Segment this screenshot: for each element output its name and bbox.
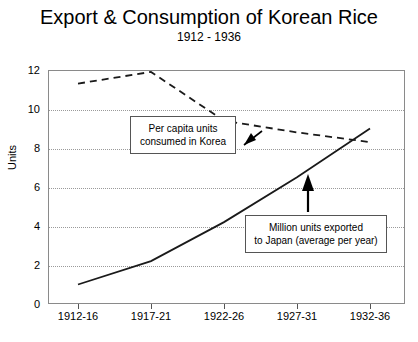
y-tick-label-2: 2 — [0, 259, 40, 271]
x-tick-mark-1922-26 — [224, 304, 225, 309]
x-tick-label-1932-36: 1932-36 — [350, 310, 390, 322]
chart-title: Export & Consumption of Korean Rice — [0, 6, 418, 29]
x-tick-label-1922-26: 1922-26 — [204, 310, 244, 322]
gridline-10 — [49, 110, 404, 111]
y-tick-label-8: 8 — [0, 142, 40, 154]
x-tick-mark-1917-21 — [151, 304, 152, 309]
gridline-2 — [49, 266, 404, 267]
x-tick-mark-1927-31 — [297, 304, 298, 309]
annotation-consumed-line1: Per capita units — [138, 122, 228, 135]
x-tick-mark-1932-36 — [370, 304, 371, 309]
y-tick-label-0: 0 — [0, 298, 40, 310]
x-tick-label-1917-21: 1917-21 — [131, 310, 171, 322]
annotation-per-capita-consumed: Per capita units consumed in Korea — [130, 116, 236, 154]
gridline-6 — [49, 188, 404, 189]
x-tick-mark-1912-16 — [78, 304, 79, 309]
x-tick-label-1912-16: 1912-16 — [58, 310, 98, 322]
x-tick-label-1927-31: 1927-31 — [277, 310, 317, 322]
annotation-exported-line2: to Japan (average per year) — [253, 234, 379, 247]
chart-container: Export & Consumption of Korean Rice 1912… — [0, 0, 418, 342]
annotation-exported-line1: Million units exported — [253, 221, 379, 234]
plot-area — [48, 70, 405, 304]
y-tick-label-10: 10 — [0, 103, 40, 115]
y-tick-label-4: 4 — [0, 220, 40, 232]
annotation-exported-to-japan: Million units exported to Japan (average… — [245, 215, 387, 253]
y-tick-label-12: 12 — [0, 64, 40, 76]
y-tick-label-6: 6 — [0, 181, 40, 193]
chart-subtitle: 1912 - 1936 — [0, 30, 418, 44]
annotation-consumed-line2: consumed in Korea — [138, 135, 228, 148]
